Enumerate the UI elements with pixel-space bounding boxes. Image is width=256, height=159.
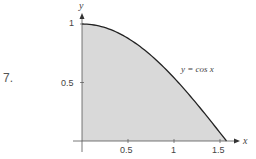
y-axis-label: y <box>79 0 83 11</box>
x-axis-arrow-icon <box>234 139 240 144</box>
x-axis-label: x <box>243 135 247 146</box>
x-tick-label-0.5: 0.5 <box>120 145 133 155</box>
y-axis-arrow-icon <box>80 13 85 19</box>
y-tick-label-0.5: 0.5 <box>61 78 74 88</box>
shaded-area <box>82 24 227 141</box>
x-tick-label-1.5: 1.5 <box>212 145 225 155</box>
x-tick-label-1: 1 <box>171 145 176 155</box>
annotation-text: y = cos x <box>181 64 214 74</box>
cosine-area-plot <box>0 0 256 159</box>
y-tick-label-1: 1 <box>69 18 74 28</box>
function-annotation: y = cos x <box>181 64 214 74</box>
